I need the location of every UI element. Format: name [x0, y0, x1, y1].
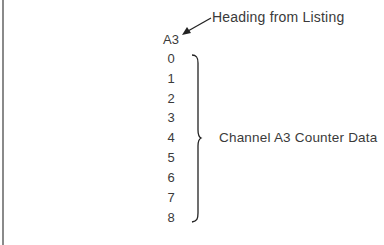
arrow-icon: [182, 18, 211, 35]
curly-brace-icon: [192, 55, 201, 222]
diagram-overlay: [0, 0, 384, 245]
